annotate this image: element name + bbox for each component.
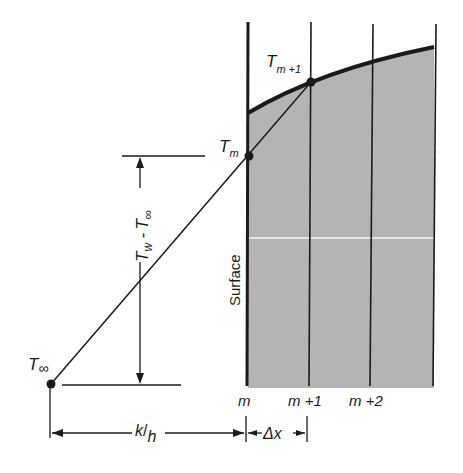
scan-stripe (249, 237, 434, 239)
node-label-m: m (238, 392, 251, 409)
k-over-h-label: k/h (135, 422, 156, 445)
arrowhead-up-icon (136, 157, 144, 168)
node-label-m1: m +1 (288, 392, 322, 409)
temp-diff-label: Tw -T∞ (133, 210, 155, 262)
arrowhead-down-icon (136, 373, 144, 384)
delta-x-label: Δx (262, 425, 283, 442)
arrowhead-left-icon (52, 429, 63, 437)
svg-text:Tw -T∞: Tw -T∞ (133, 210, 155, 262)
point-t-inf (47, 380, 56, 389)
arrowhead-right-icon (296, 430, 305, 436)
surface-line-m (247, 22, 248, 386)
t-inf-label: T∞ (28, 355, 48, 376)
surface-label: Surface (226, 254, 243, 306)
t-m-label: Tm (219, 137, 239, 159)
point-t-m (245, 152, 254, 161)
point-t-m-plus-1 (307, 78, 316, 87)
node-label-m2: m +2 (349, 392, 383, 409)
t-m-plus-1-label: Tm +1 (266, 52, 301, 75)
diagram-canvas: Tw -T∞ Surface Tm +1 Tm T∞ m m +1 m +2 k… (0, 0, 463, 473)
arrowhead-right-icon (233, 429, 244, 437)
arrowhead-left-icon (248, 430, 257, 436)
